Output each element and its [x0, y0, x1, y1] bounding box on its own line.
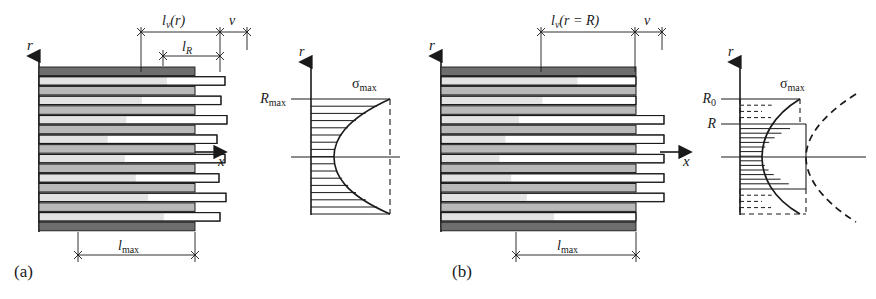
- laminate-row: [441, 213, 636, 222]
- laminate-row: [39, 222, 195, 231]
- laminate-band: [441, 145, 636, 154]
- laminate-band: [39, 222, 195, 231]
- fibre-free-length: [554, 214, 635, 221]
- panel-b-stress-plot: r R0 R σmax: [701, 44, 866, 222]
- panel-a-dim-lmax: lmax: [74, 232, 199, 262]
- laminate-band: [39, 183, 195, 192]
- laminate-row: [441, 86, 636, 95]
- laminate-band: [441, 67, 636, 76]
- fibre-free-length: [519, 117, 663, 124]
- r-axis-label-a: r: [27, 37, 33, 53]
- lv-arg-b: (r = R): [559, 13, 599, 29]
- svg-text:R0: R0: [701, 91, 716, 108]
- laminate-row: [39, 86, 195, 95]
- svg-text:Rmax: Rmax: [259, 91, 286, 108]
- fibre-free-length: [511, 175, 663, 182]
- laminate-row: [441, 154, 664, 163]
- laminate-row: [441, 174, 664, 183]
- panel-a-axis-r: r: [27, 37, 39, 232]
- laminate-band: [39, 86, 195, 95]
- laminate-row: [441, 96, 636, 105]
- laminate-row: [39, 96, 221, 105]
- laminate-band: [39, 164, 195, 173]
- fibre-free-length: [136, 175, 218, 182]
- svg-text:lmax: lmax: [118, 238, 139, 255]
- figure-root: r x lv(r) v: [0, 0, 876, 299]
- laminate-row: [39, 145, 195, 154]
- lmax-sub-a: max: [122, 244, 139, 255]
- panel-a-dim-v: v: [220, 13, 251, 50]
- stress-r-label-b: r: [728, 44, 734, 59]
- diagram-canvas: r x lv(r) v: [0, 0, 876, 299]
- stress-r-label-a: r: [299, 44, 305, 59]
- laminate-row: [39, 67, 195, 76]
- panel-a-dim-lr: lR: [159, 39, 224, 66]
- R0-base-a: R: [259, 91, 269, 106]
- fibre-free-length: [126, 117, 226, 124]
- laminate-row: [441, 193, 664, 202]
- panel-b-dim-lmax: lmax: [512, 232, 640, 262]
- laminate-band: [441, 203, 636, 212]
- panel-a: r x lv(r) v: [27, 13, 400, 262]
- lv-arg-a: (r): [170, 13, 185, 29]
- laminate-row: [39, 174, 219, 183]
- laminate-row: [39, 154, 225, 163]
- laminate-band: [39, 203, 195, 212]
- laminate-row: [39, 106, 195, 115]
- svg-text:lv(r = R): lv(r = R): [551, 13, 599, 30]
- stress-curve-b-dashed: [806, 94, 856, 222]
- lmax-sub-b: max: [561, 244, 578, 255]
- fibre-free-length: [164, 214, 219, 221]
- laminate-band: [39, 145, 195, 154]
- laminate-row: [441, 67, 636, 76]
- fibre-free-length: [167, 78, 224, 85]
- R-label-b: R: [706, 116, 716, 131]
- svg-text:σmax: σmax: [352, 76, 377, 93]
- laminate-row: [441, 135, 664, 144]
- laminate-band: [39, 106, 195, 115]
- laminate-band: [441, 164, 636, 173]
- v-label-a: v: [229, 13, 236, 28]
- laminate-row: [39, 125, 195, 134]
- laminate-row: [441, 145, 636, 154]
- x-axis-label-a: x: [217, 153, 225, 169]
- laminate-band: [441, 183, 636, 192]
- laminate-row: [441, 222, 636, 231]
- laminate-row: [441, 116, 664, 125]
- laminate-row: [441, 125, 636, 134]
- laminate-row: [39, 203, 195, 212]
- laminate-band: [39, 67, 195, 76]
- panel-b-dim-lv: lv(r = R): [537, 13, 639, 72]
- sigma-sub-b: max: [788, 82, 805, 93]
- svg-text:σmax: σmax: [780, 76, 805, 93]
- laminate-row: [39, 183, 195, 192]
- fibre-free-length: [142, 97, 220, 104]
- fibre-free-length: [148, 194, 225, 201]
- R0-base-b: R: [701, 91, 711, 106]
- panel-label-a: (a): [14, 262, 33, 282]
- panel-a-stress-plot: r Rmax σmax: [259, 44, 400, 215]
- fibre-free-length: [527, 194, 663, 201]
- r-axis-label-b: r: [429, 37, 435, 53]
- laminate-row: [39, 164, 195, 173]
- laminate-row: [441, 203, 636, 212]
- R0-sub-a: max: [269, 97, 286, 108]
- laminate-band: [441, 222, 636, 231]
- fibre-free-length: [108, 136, 216, 143]
- svg-text:lmax: lmax: [557, 238, 578, 255]
- laminate-band: [441, 125, 636, 134]
- panel-label-b: (b): [452, 262, 472, 282]
- fibre-free-length: [542, 97, 635, 104]
- panel-b-laminate-stack: [441, 67, 664, 231]
- laminate-row: [39, 135, 217, 144]
- x-axis-label-b: x: [682, 153, 690, 169]
- panel-a-dim-lv: lv(r): [137, 13, 224, 72]
- laminate-row: [441, 183, 636, 192]
- panel-b-dim-v: v: [635, 13, 666, 50]
- R0-sub-b: 0: [711, 97, 716, 108]
- laminate-band: [39, 125, 195, 134]
- panel-b: r x lv(r = R) v: [429, 13, 866, 262]
- svg-text:lv(r): lv(r): [162, 13, 185, 30]
- lr-sub-a: R: [185, 45, 192, 56]
- laminate-row: [39, 213, 220, 222]
